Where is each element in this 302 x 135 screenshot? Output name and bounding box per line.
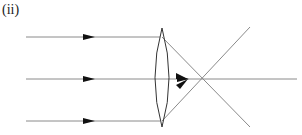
arrow-icon (83, 34, 95, 40)
convex-lens (155, 28, 169, 127)
refracted-ray-bottom (162, 27, 250, 121)
refracted-ray-top (162, 37, 250, 127)
lens-ray-diagram (0, 0, 302, 135)
arrow-icon (83, 118, 95, 124)
arrow-icon (83, 76, 95, 82)
